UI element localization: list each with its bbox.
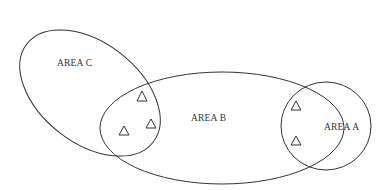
area-a-label: AREA A: [324, 122, 359, 132]
venn-diagram: [0, 0, 392, 190]
triangle-marker: [119, 126, 129, 135]
area-c-ellipse: [0, 4, 184, 181]
triangle-marker: [291, 136, 301, 145]
area-b-ellipse: [100, 72, 344, 184]
triangle-marker: [291, 101, 301, 110]
triangle-marker: [137, 91, 147, 101]
area-c-label: AREA C: [57, 58, 92, 68]
area-b-label: AREA B: [191, 113, 226, 123]
triangle-marker: [146, 119, 156, 128]
